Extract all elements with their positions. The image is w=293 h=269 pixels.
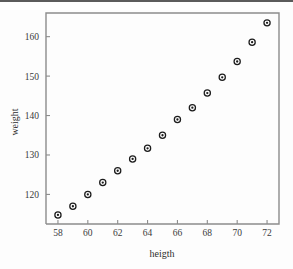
data-point-markers	[55, 20, 270, 218]
y-tick-label: 160	[25, 32, 40, 42]
y-tick-label: 130	[25, 150, 40, 160]
data-point-center	[206, 92, 208, 94]
y-axis-title: weight	[9, 108, 20, 135]
plot-canvas: 5860626466687072 120130140150160 heigth …	[0, 0, 293, 269]
x-tick-label: 60	[83, 228, 93, 238]
x-tick-label: 58	[53, 228, 63, 238]
data-point-center	[251, 41, 253, 43]
x-axis-tick-labels: 5860626466687072	[53, 228, 272, 238]
data-point-center	[117, 170, 119, 172]
data-point-center	[176, 118, 178, 120]
plot-frame	[46, 13, 279, 224]
y-axis-tick-labels: 120130140150160	[25, 32, 40, 200]
data-point-center	[266, 22, 268, 24]
y-tick-label: 140	[25, 111, 40, 121]
data-point-center	[87, 193, 89, 195]
x-tick-label: 68	[203, 228, 213, 238]
data-point-center	[191, 107, 193, 109]
data-point-center	[72, 205, 74, 207]
x-tick-label: 72	[262, 228, 272, 238]
data-point-center	[146, 147, 148, 149]
y-tick-label: 150	[25, 72, 40, 82]
y-tick-label: 120	[25, 190, 40, 200]
data-point-center	[236, 60, 238, 62]
scatter-plot-figure: 5860626466687072 120130140150160 heigth …	[0, 0, 293, 269]
data-point-center	[221, 76, 223, 78]
data-point-center	[161, 134, 163, 136]
data-point-center	[102, 181, 104, 183]
data-point-center	[131, 158, 133, 160]
x-tick-label: 66	[173, 228, 183, 238]
x-tick-label: 62	[113, 228, 123, 238]
data-point-center	[57, 214, 59, 216]
axes-box	[46, 13, 279, 224]
x-axis-title: heigth	[150, 248, 175, 259]
x-tick-label: 64	[143, 228, 153, 238]
x-tick-label: 70	[232, 228, 242, 238]
